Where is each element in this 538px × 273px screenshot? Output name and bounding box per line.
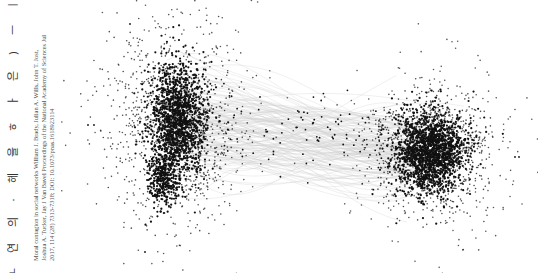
citation-text: Moral contagion in social networks Willi…: [32, 11, 57, 261]
korean-title-text: ㅗ 연 의 · 헤 을 ㅎ ㅏ 은 ) ㅡ ㅣ: [4, 0, 20, 273]
citation-line-1: Moral contagion in social networks Willi…: [32, 11, 40, 261]
citation-line-2: Joshua A. Tucker, Jay J Van Bavel Procee…: [40, 11, 48, 261]
rotated-korean-title: ㅗ 연 의 · 헤 을 ㅎ ㅏ 은 ) ㅡ ㅣ: [0, 0, 24, 273]
network-graph-svg: [60, 0, 538, 273]
citation-line-3: 2017, 114 (28) 7313-7318; DOI: 10.1073/p…: [48, 11, 56, 261]
network-figure: [60, 0, 538, 273]
citation-block: Moral contagion in social networks Willi…: [24, 0, 64, 273]
